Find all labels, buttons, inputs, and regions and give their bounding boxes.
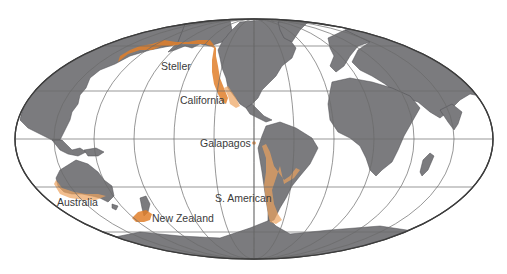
world-map: Steller California Galapagos S. American… — [0, 0, 507, 274]
label-australia: Australia — [57, 196, 98, 208]
label-steller: Steller — [161, 60, 191, 72]
label-galapagos: Galapagos — [200, 137, 251, 149]
label-new-zealand: New Zealand — [152, 212, 214, 224]
label-s-american: S. American — [215, 192, 272, 204]
label-california: California — [180, 94, 225, 106]
